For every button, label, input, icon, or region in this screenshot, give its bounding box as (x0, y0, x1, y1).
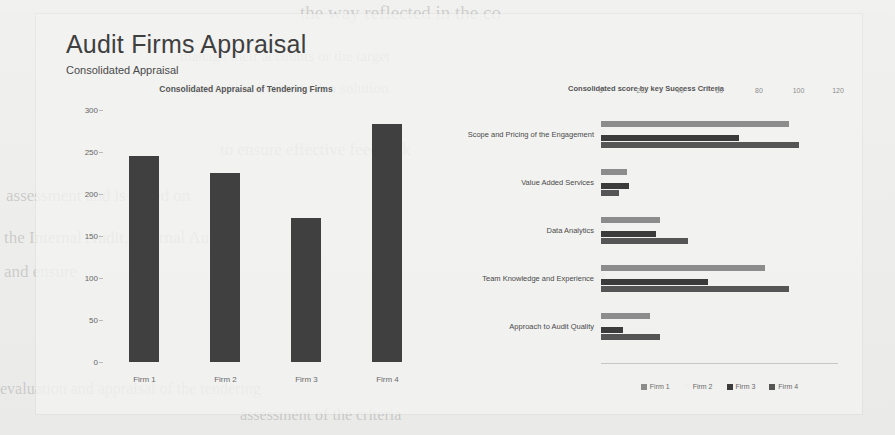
y-axis-tick-label: 150 (85, 232, 98, 241)
criteria-label: Scope and Pricing of the Engagement (468, 130, 594, 139)
y-axis-tick-mark (99, 278, 103, 279)
legend-item[interactable]: Firm 1 (641, 383, 670, 390)
y-axis-tick-label: 50 (89, 316, 98, 325)
y-axis-tick-label: 0 (94, 358, 98, 367)
x-axis-tick-label: 60 (716, 87, 724, 378)
x-axis-tick-label: 100 (793, 87, 805, 378)
y-axis-tick-mark (99, 320, 103, 321)
criteria-label: Team Knowledge and Experience (482, 274, 594, 283)
bar-firm-1[interactable] (129, 156, 159, 362)
chart-left-plot-area: 300250200150100500 (104, 110, 428, 362)
bar-column[interactable] (190, 110, 261, 362)
criteria-label: Value Added Services (521, 178, 594, 187)
legend-label: Firm 3 (736, 383, 756, 390)
y-axis-tick-label: 100 (85, 274, 98, 283)
chart-left-x-labels: Firm 1Firm 2Firm 3Firm 4 (104, 375, 428, 384)
x-axis-category-label: Firm 3 (271, 375, 342, 384)
legend-item[interactable]: Firm 4 (769, 383, 798, 390)
x-axis-category-label: Firm 4 (352, 375, 423, 384)
chart-right-legend: Firm 1Firm 2Firm 3Firm 4 (601, 383, 838, 390)
chart-consolidated-appraisal: Consolidated Appraisal of Tendering Firm… (56, 84, 436, 404)
x-axis-tick-label: 40 (676, 87, 684, 378)
legend-swatch-icon (684, 384, 690, 390)
x-axis-tick-label: 0 (599, 87, 603, 378)
y-axis-tick-label: 300 (85, 106, 98, 115)
x-axis-tick-label: 120 (832, 87, 844, 378)
page-subtitle: Consolidated Appraisal (66, 64, 179, 76)
x-axis-category-label: Firm 2 (190, 375, 261, 384)
y-axis-tick-mark (99, 110, 103, 111)
bar-firm-3[interactable] (601, 231, 656, 237)
bar-firm-2[interactable] (210, 173, 240, 362)
slide-canvas: Audit Firms Appraisal Consolidated Appra… (36, 14, 862, 414)
x-axis-tick-label: 80 (755, 87, 763, 378)
y-axis-tick-mark (99, 236, 103, 237)
chart-left-title: Consolidated Appraisal of Tendering Firm… (56, 84, 436, 94)
y-axis-tick-mark (99, 194, 103, 195)
bar-firm-3[interactable] (601, 327, 623, 333)
bar-column[interactable] (352, 110, 423, 362)
bar-firm-3[interactable] (601, 183, 629, 189)
bar-firm-4[interactable] (372, 124, 402, 362)
x-axis-tick-label: 20 (637, 87, 645, 378)
bar-firm-4[interactable] (601, 238, 688, 244)
bar-column[interactable] (109, 110, 180, 362)
chart-success-criteria: Consolidated score by key Success Criter… (436, 84, 856, 404)
legend-swatch-icon (641, 384, 647, 390)
y-axis-tick-label: 250 (85, 148, 98, 157)
bar-firm-3[interactable] (291, 218, 321, 362)
legend-swatch-icon (727, 384, 733, 390)
y-axis-tick-mark (99, 362, 103, 363)
bar-firm-4[interactable] (601, 334, 660, 340)
bar-firm-4[interactable] (601, 142, 799, 148)
x-axis-category-label: Firm 1 (109, 375, 180, 384)
criteria-label: Approach to Audit Quality (509, 322, 594, 331)
legend-item[interactable]: Firm 3 (727, 383, 756, 390)
legend-swatch-icon (769, 384, 775, 390)
bar-column[interactable] (271, 110, 342, 362)
criteria-label: Data Analytics (546, 226, 594, 235)
legend-label: Firm 4 (778, 383, 798, 390)
legend-label: Firm 1 (650, 383, 670, 390)
chart-left-bars (104, 110, 428, 362)
y-axis-tick-label: 200 (85, 190, 98, 199)
bar-firm-3[interactable] (601, 279, 708, 285)
bar-firm-4[interactable] (601, 190, 619, 196)
page-title: Audit Firms Appraisal (66, 30, 306, 59)
legend-label: Firm 2 (693, 383, 713, 390)
y-axis-tick-mark (99, 152, 103, 153)
bar-firm-1[interactable] (601, 169, 627, 175)
bar-firm-1[interactable] (601, 217, 660, 223)
legend-item[interactable]: Firm 2 (684, 383, 713, 390)
